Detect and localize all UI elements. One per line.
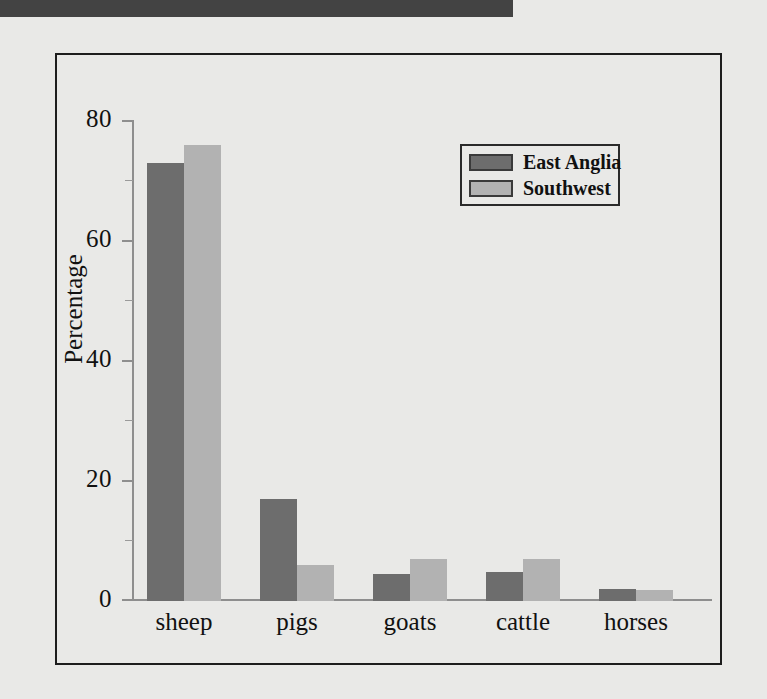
legend-label-southwest: Southwest [523,177,611,200]
scan-artifact-band [0,0,513,17]
chart-legend: East Anglia Southwest [460,144,620,206]
y-axis-title: Percentage [60,144,88,474]
legend-label-east-anglia: East Anglia [523,151,621,174]
bar-east-anglia-pigs [260,499,297,601]
y-tick-20 [122,480,133,482]
bar-east-anglia-horses [599,589,636,601]
legend-swatch-east-anglia [469,154,513,171]
bar-east-anglia-cattle [486,572,523,601]
bar-east-anglia-sheep [147,163,184,601]
y-tick-minor-50 [125,300,133,301]
y-tick-minor-70 [125,180,133,181]
bar-southwest-sheep [184,145,221,601]
y-tick-minor-30 [125,420,133,421]
bar-chart-plot: 80 60 40 20 0 Percentage sheep pigs goat… [57,55,724,667]
bar-southwest-pigs [297,565,334,601]
x-axis-label-horses: horses [566,608,706,636]
y-axis-label-80: 80 [52,105,112,133]
y-tick-0 [122,599,133,601]
y-tick-minor-10 [125,540,133,541]
bar-southwest-cattle [523,559,560,601]
figure-frame: 80 60 40 20 0 Percentage sheep pigs goat… [55,53,722,665]
bar-east-anglia-goats [373,574,410,601]
bar-southwest-goats [410,559,447,601]
y-tick-80 [122,120,133,122]
y-axis-label-0: 0 [52,585,112,613]
y-tick-60 [122,240,133,242]
y-tick-40 [122,360,133,362]
bar-southwest-horses [636,590,673,601]
legend-swatch-southwest [469,180,513,197]
